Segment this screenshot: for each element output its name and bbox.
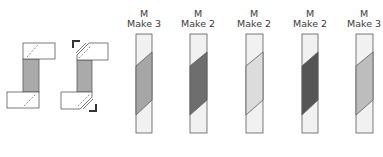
- unit-strip-2: [190, 34, 207, 133]
- quilt-diagram: M Make 3 M Make 2 M Make 2 M Make 2 M Ma…: [0, 0, 383, 157]
- trim-triangle-bottom: [89, 104, 96, 111]
- unit-quantity: Make 3: [344, 19, 383, 29]
- unit-label-4: M Make 2: [290, 9, 330, 29]
- unit-quantity: Make 2: [234, 19, 274, 29]
- unit-label-5: M Make 3: [344, 9, 383, 29]
- unit-strip-1: [136, 34, 152, 133]
- trim-step-illustration: [61, 41, 108, 111]
- unit-strip-3: [246, 34, 263, 133]
- unit-label-3: M Make 2: [234, 9, 274, 29]
- unit-quantity: Make 2: [290, 19, 330, 29]
- unit-strip-4: [302, 34, 318, 133]
- unit-quantity: Make 2: [178, 19, 218, 29]
- unit-label-2: M Make 2: [178, 9, 218, 29]
- unit-strip-5: [356, 34, 373, 133]
- trim-triangle-top: [73, 41, 80, 48]
- unit-label-1: M Make 3: [124, 9, 164, 29]
- sew-step-illustration: [7, 43, 55, 108]
- unit-quantity: Make 3: [124, 19, 164, 29]
